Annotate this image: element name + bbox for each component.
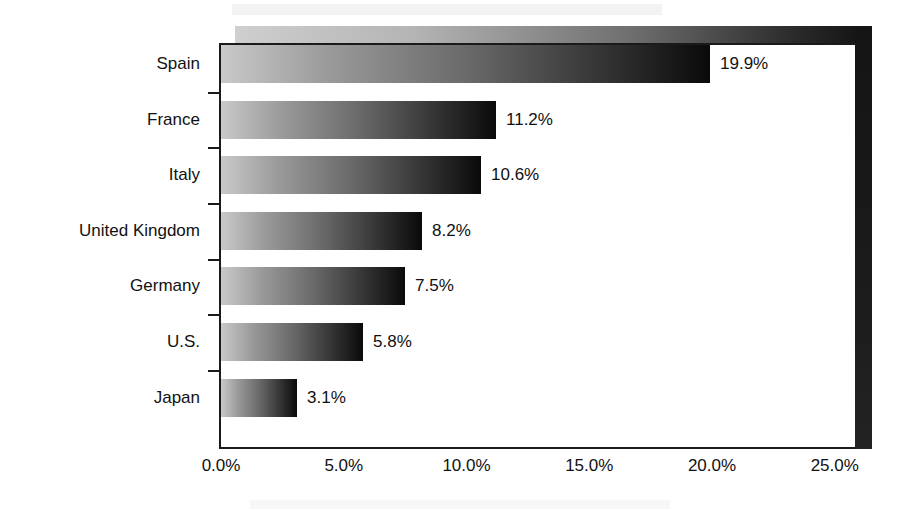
category-label: Spain: [0, 55, 200, 72]
bar-value-label: 11.2%: [506, 111, 553, 128]
plot-wall-right-face: [855, 26, 872, 449]
bar: [221, 101, 496, 139]
bar-value-label: 8.2%: [432, 222, 471, 239]
value-axis-tick-label: 0.0%: [176, 456, 266, 475]
bar-value-label: 10.6%: [491, 166, 539, 183]
category-tick: [208, 314, 219, 316]
bar: [221, 212, 422, 250]
value-axis-tick-label: 5.0%: [299, 456, 389, 475]
value-axis-tick-label: 20.0%: [667, 456, 757, 475]
category-tick: [208, 92, 219, 94]
category-tick: [208, 259, 219, 261]
bar: [221, 45, 710, 83]
category-tick: [208, 203, 219, 205]
category-label: U.S.: [0, 333, 200, 350]
bar: [221, 156, 481, 194]
category-label: Germany: [0, 277, 200, 294]
value-axis-tick-label: 15.0%: [544, 456, 634, 475]
category-label: Japan: [0, 389, 200, 406]
category-tick: [208, 370, 219, 372]
bar: [221, 267, 405, 305]
category-label: France: [0, 111, 200, 128]
category-tick: [208, 147, 219, 149]
value-axis-line: [219, 447, 855, 449]
bar-value-label: 5.8%: [373, 333, 412, 350]
bar: [221, 379, 297, 417]
page-smudge: [232, 4, 662, 15]
value-axis-tick-label: 25.0%: [790, 456, 880, 475]
value-axis-tick-label: 10.0%: [422, 456, 512, 475]
bar-value-label: 3.1%: [307, 389, 346, 406]
category-label: Italy: [0, 166, 200, 183]
plot-wall-top-face: [235, 26, 872, 43]
page-smudge: [250, 500, 670, 509]
bar-chart: SpainFranceItalyUnited KingdomGermanyU.S…: [0, 0, 907, 521]
bar: [221, 323, 363, 361]
category-label: United Kingdom: [0, 222, 200, 239]
bar-value-label: 7.5%: [415, 277, 454, 294]
bar-value-label: 19.9%: [720, 55, 768, 72]
